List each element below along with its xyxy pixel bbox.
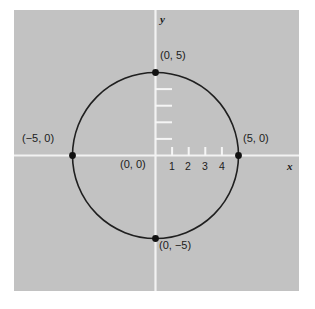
- x-axis-label: x: [287, 161, 293, 172]
- point-bottom: [152, 235, 159, 242]
- y-axis-label: y: [160, 14, 165, 25]
- point-top: [152, 69, 159, 76]
- plot-canvas: [0, 0, 315, 309]
- point-label-top: (0, 5): [160, 50, 186, 61]
- xtick-label-2: 2: [182, 161, 194, 172]
- origin-label: (0, 0): [120, 159, 146, 170]
- point-label-bottom: (0, −5): [159, 240, 191, 251]
- point-right: [235, 152, 242, 159]
- point-label-right: (5, 0): [243, 133, 269, 144]
- xtick-label-1: 1: [166, 161, 178, 172]
- xtick-label-3: 3: [199, 161, 211, 172]
- figure-container: y x (0, 5) (5, 0) (0, −5) (−5, 0) (0, 0)…: [0, 0, 315, 309]
- xtick-label-4: 4: [216, 161, 228, 172]
- y-axis-ticks: [155, 89, 172, 139]
- point-label-left: (−5, 0): [22, 133, 54, 144]
- point-left: [69, 152, 76, 159]
